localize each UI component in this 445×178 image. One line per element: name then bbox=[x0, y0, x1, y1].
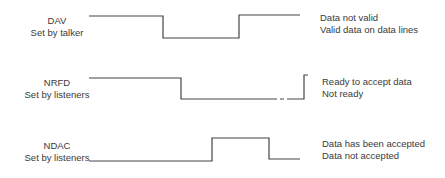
nrfd-high-state: Ready to accept data bbox=[322, 76, 412, 87]
dav-setter: Set by talker bbox=[20, 27, 94, 38]
ndac-name: NDAC bbox=[24, 140, 90, 151]
nrfd-waveform bbox=[89, 78, 273, 99]
nrfd-waveform-end bbox=[291, 75, 308, 99]
ndac-high-state: Data has been accepted bbox=[322, 138, 425, 149]
nrfd-low-state: Not ready bbox=[322, 88, 363, 99]
dav-low-state: Valid data on data lines bbox=[320, 24, 418, 35]
ndac-setter: Set by listeners bbox=[14, 152, 100, 163]
ndac-waveform bbox=[89, 138, 300, 161]
dav-waveform bbox=[89, 15, 300, 38]
dav-high-state: Data not valid bbox=[320, 12, 378, 23]
ndac-low-state: Data not accepted bbox=[322, 150, 399, 161]
dav-name: DAV bbox=[28, 15, 86, 26]
nrfd-setter: Set by listeners bbox=[14, 89, 100, 100]
nrfd-name: NRFD bbox=[24, 77, 90, 88]
